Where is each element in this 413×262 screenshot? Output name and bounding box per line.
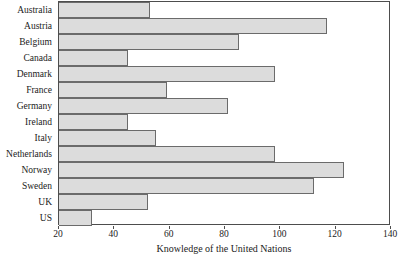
bar-row [59, 50, 389, 66]
category-label-ireland: Ireland [0, 117, 55, 127]
x-tick-label: 140 [383, 229, 397, 240]
category-axis-labels: AustraliaAustriaBelgiumCanadaDenmarkFran… [0, 1, 55, 225]
category-label-belgium: Belgium [0, 37, 55, 47]
bar [59, 2, 150, 18]
x-tick-label: 80 [219, 229, 229, 240]
bar-row [59, 210, 389, 226]
x-tick-label: 20 [53, 229, 63, 240]
bar [59, 130, 156, 146]
bar [59, 34, 239, 50]
x-tick-label: 60 [164, 229, 174, 240]
category-label-australia: Australia [0, 5, 55, 15]
x-axis-title: Knowledge of the United Nations [58, 243, 390, 254]
bar [59, 146, 275, 162]
category-label-austria: Austria [0, 21, 55, 31]
category-label-france: France [0, 85, 55, 95]
category-label-germany: Germany [0, 101, 55, 111]
category-label-uk: UK [0, 197, 55, 207]
bars-layer [59, 2, 389, 224]
category-label-us: US [0, 213, 55, 223]
bar [59, 82, 167, 98]
bar-row [59, 162, 389, 178]
bar [59, 98, 228, 114]
category-label-denmark: Denmark [0, 69, 55, 79]
bar-row [59, 2, 389, 18]
bar-row [59, 34, 389, 50]
bar-chart: AustraliaAustriaBelgiumCanadaDenmarkFran… [0, 0, 413, 262]
category-label-canada: Canada [0, 53, 55, 63]
bar [59, 194, 148, 210]
bar-row [59, 66, 389, 82]
x-tick-label: 40 [109, 229, 119, 240]
bar-row [59, 146, 389, 162]
plot-area [58, 1, 390, 225]
category-label-sweden: Sweden [0, 181, 55, 191]
x-axis-ticks: 20406080100120140 [0, 226, 413, 240]
category-label-italy: Italy [0, 133, 55, 143]
bar-row [59, 82, 389, 98]
category-label-netherlands: Netherlands [0, 149, 55, 159]
bar-row [59, 98, 389, 114]
bar [59, 162, 344, 178]
bar [59, 210, 92, 226]
bar-row [59, 18, 389, 34]
x-tick-label: 120 [328, 229, 342, 240]
bar [59, 114, 128, 130]
bar [59, 50, 128, 66]
x-tick-label: 100 [272, 229, 286, 240]
bar-row [59, 114, 389, 130]
category-label-norway: Norway [0, 165, 55, 175]
bar [59, 178, 314, 194]
bar-row [59, 194, 389, 210]
bar [59, 18, 327, 34]
bar-row [59, 178, 389, 194]
bar [59, 66, 275, 82]
bar-row [59, 130, 389, 146]
